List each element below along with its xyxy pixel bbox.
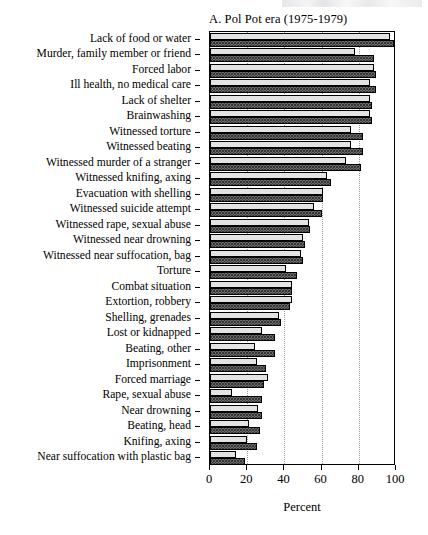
value-tick bbox=[209, 465, 210, 470]
bar-men bbox=[210, 133, 363, 140]
value-tick-label: 100 bbox=[386, 472, 405, 487]
bar-women bbox=[210, 157, 346, 164]
category-tick bbox=[195, 318, 200, 319]
bar-group bbox=[210, 281, 394, 295]
category-tick bbox=[195, 147, 200, 148]
category-tick bbox=[195, 457, 200, 458]
bar-group bbox=[210, 327, 394, 341]
category-tick bbox=[195, 395, 200, 396]
category-label: Lost or kidnapped bbox=[107, 327, 191, 339]
category-tick bbox=[195, 163, 200, 164]
xaxis-title: Percent bbox=[209, 500, 395, 515]
category-tick bbox=[195, 302, 200, 303]
category-label: Evacuation with shelling bbox=[76, 188, 191, 200]
bar-men bbox=[210, 396, 262, 403]
category-tick bbox=[195, 256, 200, 257]
bar-women bbox=[210, 234, 303, 241]
bar-men bbox=[210, 288, 292, 295]
bar-women bbox=[210, 48, 355, 55]
category-label: Shelling, grenades bbox=[105, 312, 191, 324]
bar-men bbox=[210, 272, 297, 279]
value-tick bbox=[395, 465, 396, 470]
category-tick bbox=[195, 333, 200, 334]
chart-title: A. Pol Pot era (1975-1979) bbox=[209, 12, 347, 27]
bar-group bbox=[210, 420, 394, 434]
bar-women bbox=[210, 420, 249, 427]
value-tick-label: 40 bbox=[277, 472, 290, 487]
bar-women bbox=[210, 188, 323, 195]
bar-group bbox=[210, 405, 394, 419]
bar-men bbox=[210, 179, 331, 186]
value-tick-label: 0 bbox=[206, 472, 212, 487]
category-tick bbox=[195, 442, 200, 443]
value-tick-label: 60 bbox=[314, 472, 327, 487]
category-tick bbox=[195, 194, 200, 195]
bar-men bbox=[210, 334, 275, 341]
bar-women bbox=[210, 95, 370, 102]
bar-women bbox=[210, 172, 327, 179]
bar-men bbox=[210, 71, 376, 78]
category-tick bbox=[195, 364, 200, 365]
bar-group bbox=[210, 141, 394, 155]
bar-women bbox=[210, 250, 301, 257]
bar-group bbox=[210, 172, 394, 186]
bar-men bbox=[210, 86, 376, 93]
category-axis: Lack of food or waterMurder, family memb… bbox=[0, 31, 200, 465]
value-tick bbox=[321, 465, 322, 470]
category-label: Beating, head bbox=[127, 420, 191, 432]
category-label: Combat situation bbox=[111, 281, 191, 293]
bar-women bbox=[210, 389, 232, 396]
bar-group bbox=[210, 296, 394, 310]
category-tick bbox=[195, 426, 200, 427]
bar-men bbox=[210, 365, 266, 372]
category-tick bbox=[195, 287, 200, 288]
category-label: Brainwashing bbox=[127, 110, 191, 122]
value-tick bbox=[283, 465, 284, 470]
bar-men bbox=[210, 102, 372, 109]
page-header-artifact bbox=[282, 0, 422, 7]
category-tick bbox=[195, 271, 200, 272]
category-label: Extortion, robbery bbox=[105, 296, 191, 308]
bar-women bbox=[210, 358, 257, 365]
bar-men bbox=[210, 241, 305, 248]
bar-women bbox=[210, 33, 390, 40]
bar-women bbox=[210, 374, 268, 381]
bar-women bbox=[210, 281, 292, 288]
category-label: Beating, other bbox=[125, 343, 191, 355]
bar-chart-figure: A. Pol Pot era (1975-1979) Lack of food … bbox=[0, 0, 428, 535]
category-label: Witnessed murder of a stranger bbox=[46, 157, 191, 169]
bar-men bbox=[210, 40, 394, 47]
category-label: Imprisonment bbox=[126, 358, 191, 370]
bar-group bbox=[210, 79, 394, 93]
category-tick bbox=[195, 349, 200, 350]
category-label: Witnessed knifing, axing bbox=[75, 172, 191, 184]
bar-women bbox=[210, 343, 255, 350]
value-tick bbox=[358, 465, 359, 470]
bar-men bbox=[210, 257, 303, 264]
category-label: Knifing, axing bbox=[123, 436, 191, 448]
value-tick-label: 80 bbox=[352, 472, 365, 487]
bar-women bbox=[210, 312, 279, 319]
category-tick bbox=[195, 178, 200, 179]
bar-men bbox=[210, 412, 262, 419]
category-tick bbox=[195, 116, 200, 117]
bar-group bbox=[210, 312, 394, 326]
category-label: Lack of food or water bbox=[90, 33, 191, 45]
value-axis: 020406080100 bbox=[209, 465, 395, 495]
bar-group bbox=[210, 234, 394, 248]
bar-men bbox=[210, 443, 257, 450]
category-label: Murder, family member or friend bbox=[37, 48, 191, 60]
bar-group bbox=[210, 95, 394, 109]
category-label: Witnessed torture bbox=[109, 126, 191, 138]
bar-group bbox=[210, 203, 394, 217]
bar-group bbox=[210, 110, 394, 124]
category-tick bbox=[195, 39, 200, 40]
bar-group bbox=[210, 265, 394, 279]
bar-men bbox=[210, 55, 374, 62]
bar-women bbox=[210, 405, 258, 412]
category-tick bbox=[195, 54, 200, 55]
plot-area: Women Men bbox=[209, 31, 395, 465]
category-label: Witnessed beating bbox=[106, 141, 191, 153]
bar-men bbox=[210, 210, 322, 217]
bar-group bbox=[210, 451, 394, 465]
